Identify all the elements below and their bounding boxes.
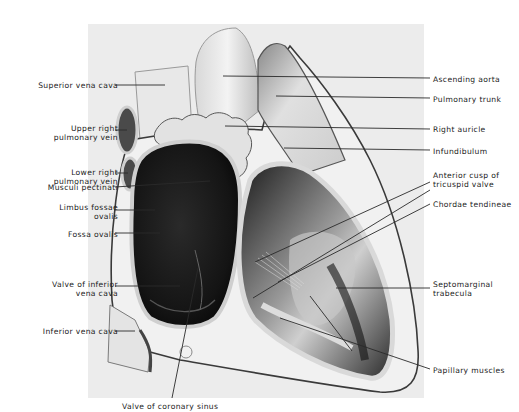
label-fossa-ovalis: Fossa ovalis: [8, 230, 118, 239]
heart-diagram: Superior vena cavaUpper right pulmonary …: [0, 0, 519, 412]
label-valve-of-coronary-sinus: Valve of coronary sinus: [122, 402, 242, 411]
label-limbus-fossae-ovalis: Limbus fossae ovalis: [8, 203, 118, 221]
label-ascending-aorta: Ascending aorta: [433, 75, 519, 84]
ascending-aorta-shape: [195, 28, 260, 126]
label-chordae-tendineae: Chordae tendineae: [433, 200, 519, 209]
right-atrium-cavity: [131, 142, 240, 327]
label-anterior-cusp-of-tricuspid-valve: Anterior cusp of tricuspid valve: [433, 171, 519, 189]
label-papillary-muscles: Papillary muscles: [433, 366, 519, 375]
label-upper-right-pulmonary-vein: Upper right pulmonary vein: [8, 124, 118, 142]
label-musculi-pectinati: Musculi pectinati: [8, 183, 118, 192]
label-pulmonary-trunk: Pulmonary trunk: [433, 95, 519, 104]
label-right-auricle: Right auricle: [433, 125, 519, 134]
label-infundibulum: Infundibulum: [433, 147, 519, 156]
label-valve-of-inferior-vena-cava: Valve of inferior vena cava: [8, 280, 118, 298]
label-septomarginal-trabecula: Septomarginal trabecula: [433, 280, 519, 298]
label-inferior-vena-cava: Inferior vena cava: [8, 327, 118, 336]
label-superior-vena-cava: Superior vena cava: [8, 81, 118, 90]
